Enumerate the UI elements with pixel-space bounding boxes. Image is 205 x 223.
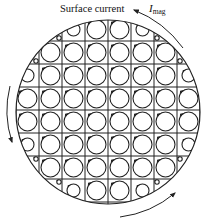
- surface-current-diagram: [0, 0, 205, 223]
- bottom-right-arrow: [120, 193, 175, 217]
- current-direction-icon: [22, 70, 25, 73]
- current-direction-icon: [68, 24, 71, 27]
- left-arrow: [7, 86, 12, 142]
- surface-current-label: Surface current: [60, 3, 124, 14]
- cell-grid: [0, 0, 205, 223]
- current-magnitude-label: Imag: [149, 2, 166, 16]
- current-subscript: mag: [153, 7, 166, 16]
